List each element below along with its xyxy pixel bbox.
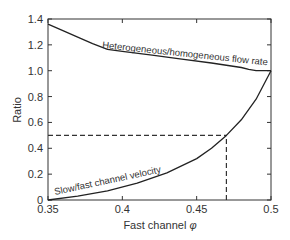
y-tick-label: 1.2 xyxy=(28,39,43,51)
y-tick-label: 0.2 xyxy=(28,168,43,180)
y-tick-label: 0.6 xyxy=(28,116,43,128)
y-tick-label: 0.8 xyxy=(28,91,43,103)
y-tick-label: 1.0 xyxy=(28,65,43,77)
x-tick-label: 0.5 xyxy=(263,203,278,215)
y-axis-label: Ratio xyxy=(11,97,23,123)
annotation-flow-rate: Heterogeneous/homogeneous flow rate xyxy=(102,39,269,67)
phi-symbol: φ xyxy=(189,219,196,231)
x-tick-label: 0.35 xyxy=(37,203,58,215)
y-tick-label: 0.4 xyxy=(28,142,43,154)
chart: 00.20.40.60.81.01.21.4 0.350.40.450.5 He… xyxy=(0,0,290,240)
x-tick-label: 0.4 xyxy=(115,203,130,215)
y-axis: 00.20.40.60.81.01.21.4 xyxy=(28,13,271,206)
x-axis-label: Fast channel φ xyxy=(123,219,196,231)
y-tick-label: 1.4 xyxy=(28,13,43,25)
x-tick-label: 0.45 xyxy=(186,203,207,215)
x-axis-label-text: Fast channel xyxy=(123,219,189,231)
